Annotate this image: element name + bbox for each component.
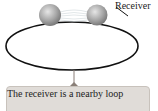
receiver-label: Receiver [115,0,151,11]
transmitter-sphere [39,4,61,26]
receiver-sphere [87,5,108,26]
wire-loop [6,22,138,70]
callout-text: The receiver is a nearby loop [7,88,123,99]
field-lines [60,10,88,22]
